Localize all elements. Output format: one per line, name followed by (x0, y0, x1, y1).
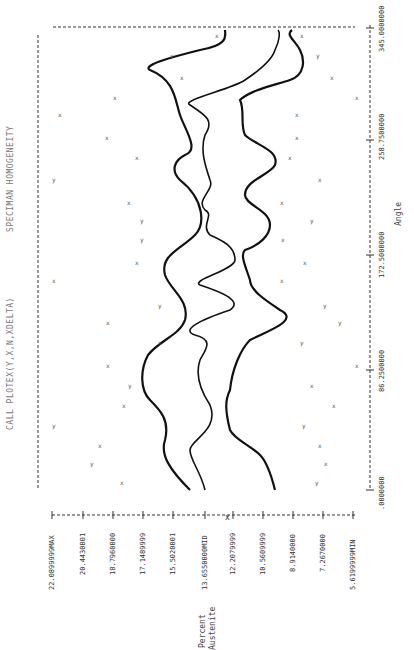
svg-text:y: y (140, 236, 144, 244)
svg-text:y: y (302, 422, 306, 430)
svg-text:y: y (158, 302, 162, 310)
svg-text:y: y (316, 52, 320, 60)
y-tick-label: 18.7960000 (109, 533, 117, 575)
chart-title: SPECIMAN HOMOGENEITY (6, 126, 15, 232)
svg-text:x: x (300, 32, 304, 39)
svg-text:x: x (180, 74, 184, 81)
svg-text:x: x (324, 460, 328, 467)
svg-text:x: x (288, 154, 292, 161)
svg-text:x: x (318, 176, 322, 183)
svg-text:x: x (280, 277, 284, 284)
upper-envelope-curve (142, 30, 225, 490)
svg-text:x: x (120, 479, 124, 486)
y-tick-label: 13.6550000MID (201, 535, 209, 590)
y-tick-label: 20.4430001 (79, 533, 87, 575)
svg-text:x: x (158, 339, 162, 346)
svg-text:x: x (113, 94, 117, 101)
y-tick-label: 15.5020001 (169, 533, 177, 575)
svg-text:x: x (58, 111, 62, 118)
svg-text:x: x (332, 402, 336, 409)
scatter-markers: xx yy xx xx xx xx xx yx xx yy yx xx xx y… (52, 32, 359, 522)
svg-text:x: x (355, 362, 359, 369)
y-tick-label: 17.1489999 (139, 533, 147, 575)
y-tick-label: 10.5609999 (259, 533, 267, 575)
svg-text:y: y (338, 319, 342, 327)
svg-text:x: x (52, 277, 56, 284)
svg-text:x: x (106, 319, 110, 326)
y-tick-label: 22.0899999MAX (48, 535, 56, 590)
svg-text:x: x (281, 236, 285, 243)
svg-text:x: x (122, 402, 126, 409)
svg-text:x: x (105, 134, 109, 141)
svg-text:x: x (330, 74, 334, 81)
svg-text:x: x (215, 32, 219, 39)
svg-text:x: x (280, 199, 284, 206)
x-tick-label: 86.2500000 (378, 350, 386, 392)
mean-curve (189, 30, 280, 490)
x-axis-title: Angle (394, 202, 403, 226)
svg-text:x: x (135, 154, 139, 161)
x-tick-label: 258.7500000 (378, 114, 386, 160)
svg-text:y: y (140, 217, 144, 225)
svg-text:x: x (310, 382, 314, 389)
svg-text:y: y (323, 302, 327, 310)
svg-text:x: x (135, 259, 139, 266)
svg-text:y: y (52, 422, 56, 430)
y-axis-title-line1: Percent (198, 614, 207, 648)
svg-text:x: x (127, 199, 131, 206)
x-tick-label: .0000000 (378, 476, 386, 510)
y-tick-label: 5.6199999MIN (349, 539, 357, 590)
svg-text:x: x (303, 259, 307, 266)
svg-text:y: y (315, 479, 319, 487)
svg-text:y: y (90, 460, 94, 468)
y-tick-label: 7.2670000 (319, 534, 327, 572)
svg-text:y: y (128, 382, 132, 390)
call-plotex-label: CALL PLOTEX(Y,X,N,XDELTA) (6, 297, 15, 430)
svg-text:x: x (295, 111, 299, 118)
svg-text:x: x (318, 442, 322, 449)
svg-text:y: y (52, 176, 56, 184)
y-tick-label: 12.2079999 (229, 533, 237, 575)
y-tick-label: 8.9140000 (289, 534, 297, 572)
svg-text:y: y (300, 339, 304, 347)
y-axis-title-line2: Austenite (208, 607, 217, 650)
lower-envelope-curve (226, 30, 303, 490)
svg-text:x: x (355, 94, 359, 101)
svg-text:x: x (225, 513, 230, 522)
svg-text:y: y (170, 52, 174, 60)
svg-text:x: x (295, 134, 299, 141)
svg-text:x: x (106, 362, 110, 369)
x-tick-label: 345.0000000 (378, 6, 386, 52)
x-tick-label: 172.5000000 (378, 232, 386, 278)
svg-text:y: y (310, 217, 314, 225)
svg-text:x: x (98, 442, 102, 449)
